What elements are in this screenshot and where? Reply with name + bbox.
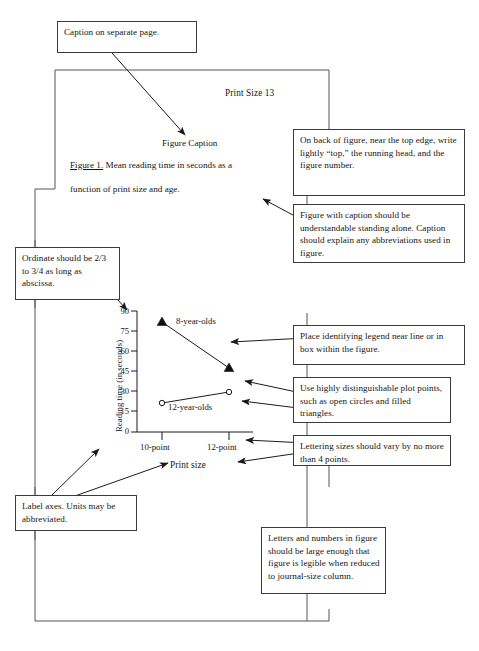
y-tick-45: 45: [113, 366, 129, 376]
y-tick-15: 15: [113, 406, 129, 416]
y-tick-60: 60: [113, 346, 129, 356]
print-size-marker: Print Size 13: [225, 88, 274, 98]
note-label-axes: Label axes. Units may be abbreviated.: [15, 495, 137, 531]
series-label-12-year-olds: 12-year-olds: [168, 402, 212, 412]
figure-plot: [131, 311, 253, 440]
note-legend-placement: Place identifying legend near line or in…: [293, 325, 465, 365]
note-letters-and-numbers: Letters and numbers in figure should be …: [261, 527, 386, 594]
series-label-8-year-olds: 8-year-olds: [176, 316, 216, 326]
note-back-of-figure: On back of figure, near the top edge, wr…: [293, 129, 465, 196]
figure-caption-line-2: function of print size and age.: [70, 184, 180, 194]
note-plot-points: Use highly distinguishable plot points, …: [293, 377, 451, 423]
x-tick-12-point: 12-point: [207, 442, 237, 452]
note-understandable-standing-alone: Figure with caption should be understand…: [293, 204, 465, 263]
figure-caption-text-1: Mean reading time in seconds as a: [105, 160, 232, 170]
y-tick-30: 30: [113, 386, 129, 396]
y-tick-0: 0: [113, 426, 129, 436]
note-caption-on-separate-page: Caption on separate page.: [57, 21, 197, 53]
chart-x-axis-label: Print size: [170, 460, 206, 470]
note-ordinate-length: Ordinate should be 2/3 to 3/4 as long as…: [15, 247, 120, 300]
x-tick-10-point: 10-point: [140, 442, 170, 452]
note-lettering-sizes: Lettering sizes should vary by no more t…: [293, 435, 451, 466]
figure-caption-heading: Figure Caption: [162, 138, 217, 148]
y-tick-75: 75: [113, 326, 129, 336]
annotated-figure-page: Print Size 13 Figure Caption Figure 1. M…: [0, 0, 479, 651]
figure-caption-line-1: Figure 1. Mean reading time in seconds a…: [70, 160, 232, 170]
y-tick-90: 90: [113, 306, 129, 316]
figure-number: Figure 1.: [70, 160, 103, 170]
